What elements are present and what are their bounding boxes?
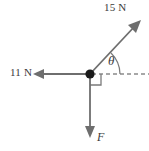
force-vector-diagram: 15 N 11 N θ F — [0, 0, 149, 151]
force-15n-label: 15 N — [104, 2, 127, 13]
angle-theta-label: θ — [108, 54, 114, 67]
force-f-arrowhead — [85, 126, 95, 138]
force-f-label: F — [97, 131, 104, 143]
force-11n-arrowhead — [33, 69, 44, 79]
force-11n-label: 11 N — [10, 67, 32, 78]
vertex-point — [85, 69, 94, 78]
